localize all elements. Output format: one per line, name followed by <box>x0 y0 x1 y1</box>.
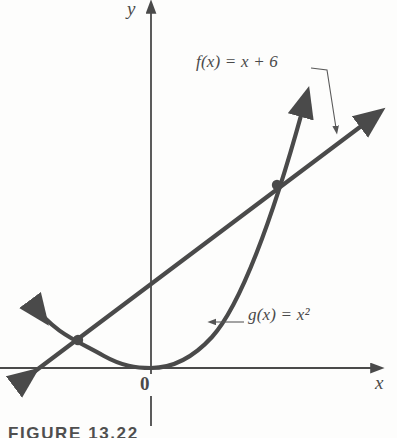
figure-caption: FIGURE 13.22 <box>8 424 139 438</box>
origin-label: 0 <box>140 373 150 395</box>
function-label-gx: g(x) = x² <box>248 305 310 325</box>
intersection-point-right <box>272 180 282 190</box>
intersection-point-left <box>73 335 83 345</box>
leader-line-fx <box>311 68 336 128</box>
y-axis-label: y <box>127 0 136 20</box>
function-label-fx: f(x) = x + 6 <box>196 52 278 72</box>
figure-container: f(x) = x + 6 g(x) = x² y x 0 FIGURE 13.2… <box>0 0 397 438</box>
x-axis-label: x <box>375 372 384 394</box>
parabola-curve-gx <box>33 112 302 368</box>
line-fx <box>18 124 364 384</box>
